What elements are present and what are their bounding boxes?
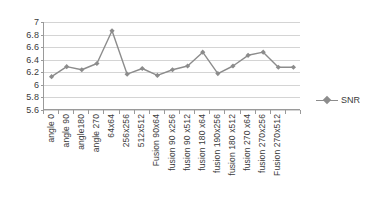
x-axis-tick-label: fusion 90 x512 bbox=[182, 114, 191, 171]
x-axis-label-slot: 512x512 bbox=[134, 114, 148, 197]
legend-label-snr: SNR bbox=[341, 96, 360, 105]
series-svg bbox=[44, 22, 301, 110]
x-axis-tick-label: fusion 270x256 bbox=[258, 114, 267, 173]
legend-series-symbol bbox=[316, 96, 338, 105]
y-axis-tick-label: 5.6 bbox=[0, 106, 39, 115]
plot-area bbox=[43, 22, 300, 110]
x-axis-label-slot: fusion 180 x512 bbox=[225, 114, 239, 197]
y-axis-tick-label: 6 bbox=[0, 80, 39, 89]
x-axis-label-slot: angle 90 bbox=[59, 114, 73, 197]
y-axis-tick-label: 6.8 bbox=[0, 30, 39, 39]
x-axis-tick-label: 64x64 bbox=[107, 114, 116, 138]
x-axis-tick-label: 512x512 bbox=[137, 114, 146, 147]
x-axis-label-slot: 64x64 bbox=[104, 114, 118, 197]
x-axis-label-slot: angle180 bbox=[74, 114, 88, 197]
x-axis-tick-label: fusion 180 x64 bbox=[197, 114, 206, 171]
y-axis-tick-label: 5.8 bbox=[0, 93, 39, 102]
x-axis-tick-label: fusion 190x256 bbox=[212, 114, 221, 173]
x-axis-tick-label: Fusion 90x64 bbox=[152, 114, 161, 166]
data-point-marker bbox=[291, 65, 296, 70]
y-axis-labels: 76.86.66.46.265.85.6 bbox=[0, 22, 39, 110]
x-axis-label-slot: fusion 180 x64 bbox=[195, 114, 209, 197]
diamond-marker-icon bbox=[323, 96, 331, 104]
x-axis-tick bbox=[300, 110, 301, 114]
x-axis-tick-label: fusion 90 x256 bbox=[167, 114, 176, 171]
x-axis-label-slot: fusion 90 x256 bbox=[165, 114, 179, 197]
x-axis-labels: angle 0angle 90angle180angle 27064x64256… bbox=[43, 114, 300, 197]
x-axis-label-slot: fusion 270x256 bbox=[255, 114, 269, 197]
data-point-marker bbox=[140, 66, 145, 71]
x-axis-tick-label: angle180 bbox=[76, 114, 85, 150]
x-axis-tick-label: fusion 180 x512 bbox=[227, 114, 236, 176]
y-axis-tick-label: 6.6 bbox=[0, 43, 39, 52]
y-axis-tick-label: 6.4 bbox=[0, 55, 39, 64]
y-axis-tick-label: 7 bbox=[0, 18, 39, 27]
data-point-marker bbox=[94, 61, 99, 66]
x-axis-tick-label: 256x256 bbox=[122, 114, 131, 147]
x-axis-label-slot: Fusion 90x64 bbox=[149, 114, 163, 197]
x-axis-tick-label: angle 90 bbox=[61, 114, 70, 147]
x-axis-label-slot: fusion 90 x512 bbox=[180, 114, 194, 197]
x-axis-label-slot: Fusion 270x512 bbox=[270, 114, 284, 197]
x-axis-tick-label: angle 0 bbox=[46, 114, 55, 143]
x-axis-tick-label: angle 270 bbox=[91, 114, 100, 152]
x-axis-label-slot: angle 0 bbox=[44, 114, 58, 197]
snr-line-chart: 76.86.66.46.265.85.6 angle 0angle 90angl… bbox=[0, 0, 392, 197]
data-point-marker bbox=[79, 67, 84, 72]
data-point-marker bbox=[109, 28, 114, 33]
legend: SNR bbox=[316, 93, 360, 107]
data-point-marker bbox=[125, 72, 130, 77]
x-axis-label-slot: fusion 270 x64 bbox=[240, 114, 254, 197]
x-axis-label-slot: 256x256 bbox=[119, 114, 133, 197]
y-axis-tick-label: 6.2 bbox=[0, 68, 39, 77]
x-axis-tick-label: Fusion 270x512 bbox=[273, 114, 282, 176]
data-point-marker bbox=[170, 67, 175, 72]
x-axis-label-slot: angle 270 bbox=[89, 114, 103, 197]
data-point-marker bbox=[155, 73, 160, 78]
x-axis-label-slot: fusion 190x256 bbox=[210, 114, 224, 197]
x-axis-tick-label: fusion 270 x64 bbox=[243, 114, 252, 171]
